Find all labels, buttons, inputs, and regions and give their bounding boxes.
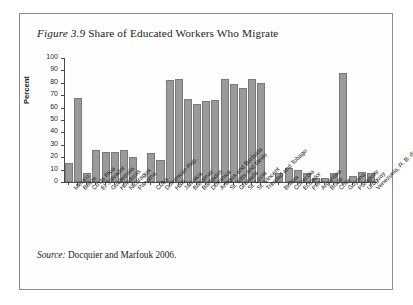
y-axis-tick-mark xyxy=(61,70,64,71)
source-label: Source: xyxy=(37,250,66,260)
chart-plot-area: Percent 0102030405060708090100 MexicoBel… xyxy=(64,58,376,182)
y-axis-tick-mark xyxy=(61,182,64,183)
x-axis-tick-mark xyxy=(278,182,279,185)
x-axis-tick-label: Guatemala xyxy=(109,186,114,191)
x-axis-tick-label: Cuba xyxy=(154,186,159,191)
y-axis-tick-mark xyxy=(61,83,64,84)
bar xyxy=(339,73,347,182)
x-axis-tick-label: Barbados xyxy=(200,186,205,191)
x-axis-tick-label: St. Vincent xyxy=(255,186,260,191)
x-axis-tick-label: Argentina xyxy=(319,186,324,191)
x-axis-tick-label: Jamaica xyxy=(182,186,187,191)
x-axis-tick-mark xyxy=(68,182,69,185)
x-axis-tick-label: St. Kitts and Nevis xyxy=(228,186,233,191)
x-axis-tick-label: Grenada xyxy=(237,186,242,191)
x-axis-tick-label: Panama xyxy=(136,186,141,191)
y-axis-tick-label: 70 xyxy=(50,90,58,97)
y-axis-tick-mark xyxy=(61,170,64,171)
x-axis-tick-label: Bolivia xyxy=(282,186,287,191)
x-axis-tick-label: Nicaragua xyxy=(127,186,132,191)
y-axis-tick-label: 100 xyxy=(46,53,58,60)
x-axis-tick-label: Haiti xyxy=(173,186,178,191)
y-axis-tick-mark xyxy=(61,58,64,59)
bar xyxy=(74,98,82,182)
x-axis-tick-label: Bahamas xyxy=(191,186,196,191)
x-axis-tick-label: Paraguay xyxy=(356,186,361,191)
x-axis-tick-label: St. Lucia xyxy=(246,186,251,191)
source-note: Source: Docquier and Marfouk 2006. xyxy=(37,250,176,260)
y-axis-tick-mark xyxy=(61,145,64,146)
x-axis-labels: MexicoBelizeCosta RicaEl SalvadorGuatema… xyxy=(65,186,377,258)
x-axis-tick-label: Costa Rica xyxy=(90,186,95,191)
x-axis-tick-label: Mexico xyxy=(72,186,77,191)
y-axis-tick-label: 80 xyxy=(50,78,58,85)
y-axis-tick-label: 90 xyxy=(50,65,58,72)
bar xyxy=(65,163,73,182)
figure-title: Figure 3.9 Share of Educated Workers Who… xyxy=(37,27,279,39)
x-axis-tick-label: Brazil xyxy=(328,186,333,191)
y-axis-label: Percent xyxy=(22,76,31,104)
y-axis-tick-label: 60 xyxy=(50,103,58,110)
x-axis-tick-label: Dominica xyxy=(209,186,214,191)
bar-series xyxy=(65,58,377,182)
y-axis-tick-mark xyxy=(61,132,64,133)
x-axis-tick-mark xyxy=(150,182,151,185)
x-axis-tick-label: Dominican Rep. xyxy=(163,186,168,191)
x-axis-tick-label: Uruguay xyxy=(365,186,370,191)
x-axis-tick-label: Trinidad and Tobago xyxy=(264,186,269,191)
y-axis-tick-label: 10 xyxy=(50,165,58,172)
y-axis-tick-label: 0 xyxy=(54,177,58,184)
y-axis-tick-label: 20 xyxy=(50,152,58,159)
figure-card: Figure 3.9 Share of Educated Workers Who… xyxy=(19,13,393,290)
x-axis-tick-label: Ecuador xyxy=(301,186,306,191)
y-axis-tick-mark xyxy=(61,157,64,158)
x-axis-tick-label: Antigua and Barbuda xyxy=(218,186,223,191)
y-axis-tick-mark xyxy=(61,108,64,109)
x-axis-tick-label: Guyana xyxy=(346,186,351,191)
y-axis-tick-label: 50 xyxy=(50,115,58,122)
x-axis-tick-label: Colombia xyxy=(292,186,297,191)
y-axis-tick-label: 30 xyxy=(50,140,58,147)
figure-number: Figure 3.9 xyxy=(37,27,85,39)
x-axis-tick-label: Venezuela, R. B. de xyxy=(374,186,379,191)
y-axis-tick-mark xyxy=(61,95,64,96)
y-axis-tick-label: 40 xyxy=(50,127,58,134)
x-axis-tick-label: Chile xyxy=(337,186,342,191)
bar xyxy=(257,83,265,182)
source-text: Docquier and Marfouk 2006. xyxy=(66,250,177,260)
bar xyxy=(166,80,174,182)
figure-title-text: Share of Educated Workers Who Migrate xyxy=(85,27,278,39)
x-axis-tick-label: El Salvador xyxy=(99,186,104,191)
y-axis-tick-mark xyxy=(61,120,64,121)
bar xyxy=(221,79,229,182)
x-axis-tick-label: Honduras xyxy=(118,186,123,191)
x-axis-tick-label: Belize xyxy=(81,186,86,191)
x-axis-tick-label: Peru xyxy=(310,186,315,191)
